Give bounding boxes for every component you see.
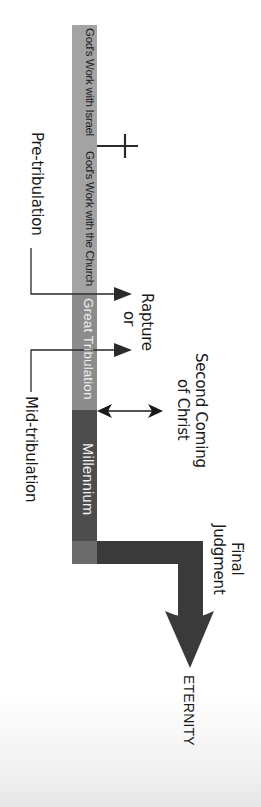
- pre-tribulation-label: Pre-tribulation: [29, 132, 44, 236]
- final-label: Final: [229, 542, 244, 576]
- second-coming-double-arrow: [97, 404, 163, 418]
- segment-label-church: God's Work with the Church: [84, 151, 96, 286]
- final-judgment-arrow: [97, 541, 214, 668]
- segment-label-great-tribulation: Great Tribulation: [82, 298, 96, 400]
- judgment-label: Judgment: [211, 524, 226, 595]
- mid-tribulation-label: Mid-tribulation: [23, 396, 38, 502]
- eternity-label: ETERNITY: [182, 675, 196, 746]
- segment-endcap: [72, 541, 97, 564]
- rapture-label: Rapture: [139, 293, 154, 351]
- segment-label-israel: God's Work with Israel: [84, 28, 96, 136]
- segment-label-millennium: Millennium: [81, 443, 96, 515]
- of-christ-label: of Christ: [175, 379, 190, 440]
- rapture-or-label: or: [121, 311, 136, 326]
- second-coming-label: Second Coming: [193, 353, 208, 468]
- cross-icon: [97, 134, 138, 158]
